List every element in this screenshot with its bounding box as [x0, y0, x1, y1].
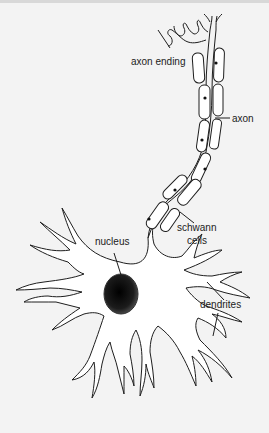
axon-ending — [168, 14, 222, 46]
label-axon-ending: axon ending — [131, 56, 186, 67]
label-nucleus: nucleus — [95, 236, 129, 247]
label-axon: axon — [232, 113, 254, 124]
label-schwann-cells-line1: schwann — [177, 222, 216, 233]
nucleus — [104, 274, 138, 314]
label-dendrites: dendrites — [200, 299, 241, 310]
label-schwann-cells-line2: cells — [187, 235, 207, 246]
